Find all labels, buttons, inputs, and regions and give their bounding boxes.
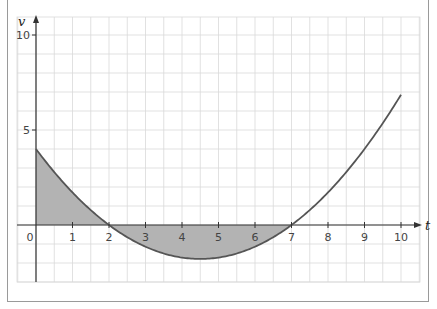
x-tick-label: 7: [288, 231, 295, 244]
x-tick-label: 3: [142, 231, 149, 244]
x-tick-label: 8: [325, 231, 332, 244]
y-tick-label: 10: [16, 29, 30, 42]
x-tick-label: 5: [215, 231, 222, 244]
x-tick-label: 6: [252, 231, 259, 244]
velocity-time-chart: 012345678910510 t v: [0, 0, 437, 309]
x-tick-label: 9: [361, 231, 368, 244]
x-tick-label: 0: [27, 231, 34, 244]
y-tick-label: 5: [23, 124, 30, 137]
x-axis-label: t: [425, 218, 431, 233]
x-tick-label: 10: [394, 231, 408, 244]
x-tick-label: 4: [179, 231, 186, 244]
x-tick-label: 2: [106, 231, 113, 244]
x-tick-label: 1: [69, 231, 76, 244]
x-axis-arrow: [414, 222, 422, 228]
y-axis-arrow: [33, 15, 39, 23]
y-axis-label: v: [18, 14, 26, 29]
